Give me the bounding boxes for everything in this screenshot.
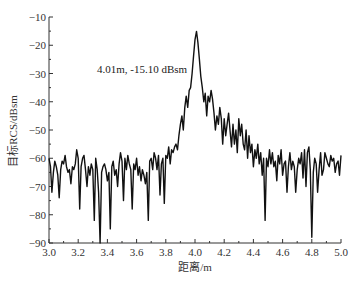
x-tick-label: 4.8 [305, 246, 319, 258]
x-tick-label: 3.0 [42, 246, 56, 258]
y-axis-title: 目标RCS/dBsm [6, 95, 19, 167]
x-tick-label: 3.2 [71, 246, 85, 258]
x-axis-ticks: 3.03.23.43.63.84.04.24.44.64.85.0 [42, 239, 348, 258]
y-tick-label: −40 [29, 96, 47, 108]
x-tick-label: 3.6 [130, 246, 144, 258]
x-tick-label: 4.4 [247, 246, 261, 258]
y-tick-label: −30 [29, 68, 47, 80]
x-tick-label: 4.0 [188, 246, 202, 258]
y-tick-label: −50 [29, 124, 47, 136]
y-tick-label: −60 [29, 152, 47, 164]
x-tick-label: 4.2 [217, 246, 231, 258]
rcs-series-line [49, 31, 341, 243]
x-tick-label: 5.0 [334, 246, 348, 258]
x-axis-title: 距离/m [178, 260, 212, 273]
y-tick-label: −10 [29, 11, 47, 23]
x-tick-label: 3.4 [101, 246, 115, 258]
x-tick-label: 4.6 [276, 246, 290, 258]
x-tick-label: 3.8 [159, 246, 173, 258]
y-tick-label: −20 [29, 39, 47, 51]
peak-annotation: 4.01m, -15.10 dBsm [97, 63, 188, 75]
rcs-line-chart: −10−20−30−40−50−60−70−80−90 3.03.23.43.6… [0, 0, 360, 283]
y-tick-label: −80 [29, 209, 47, 221]
axes [49, 17, 341, 243]
y-tick-label: −70 [29, 181, 47, 193]
